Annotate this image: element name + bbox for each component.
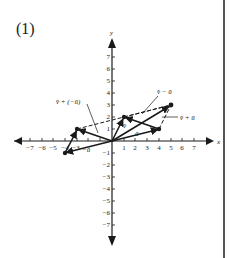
svg-text:7: 7: [192, 144, 196, 152]
svg-text:5: 5: [169, 144, 173, 152]
x-axis-label: x: [216, 138, 221, 146]
svg-text:−3: −3: [103, 173, 111, 181]
svg-text:6: 6: [107, 65, 111, 73]
x-axis-arrow-left-icon: [14, 137, 22, 145]
label-v-plus-neg-u: v̄ + (−ū): [56, 98, 81, 106]
y-axis-arrow-down-icon: [108, 236, 116, 246]
svg-text:−7: −7: [26, 144, 34, 152]
label-v-plus-u: v̄ + ū: [180, 114, 195, 122]
y-axis-label: y: [109, 29, 114, 37]
svg-text:−6: −6: [38, 144, 46, 152]
svg-text:−6: −6: [103, 209, 111, 217]
label-neg-u: −ū: [82, 146, 91, 154]
svg-text:1: 1: [122, 144, 126, 152]
svg-text:3: 3: [107, 101, 111, 109]
vector-v-minus-u: [126, 118, 160, 130]
label-v-minus-u: v̄ − ū: [157, 88, 172, 96]
svg-text:3: 3: [145, 144, 149, 152]
x-tick-labels: −7 −6 −5 −4 −3 1 2 3 4 5 6 7: [26, 144, 196, 152]
svg-text:−5: −5: [49, 144, 57, 152]
svg-text:−7: −7: [103, 221, 111, 229]
svg-text:4: 4: [157, 144, 161, 152]
svg-text:4: 4: [107, 89, 111, 97]
svg-text:2: 2: [107, 113, 111, 121]
y-axis-arrow-up-icon: [108, 38, 116, 48]
label-v: v̄: [123, 122, 127, 130]
svg-text:1: 1: [107, 125, 111, 133]
svg-text:6: 6: [180, 144, 184, 152]
svg-text:−1: −1: [103, 149, 111, 157]
svg-text:−5: −5: [103, 197, 111, 205]
svg-text:2: 2: [133, 144, 137, 152]
svg-text:7: 7: [107, 53, 111, 61]
svg-text:5: 5: [107, 77, 111, 85]
label-u: ū: [135, 130, 139, 138]
x-axis-arrow-right-icon: [206, 137, 214, 145]
svg-text:−4: −4: [103, 185, 111, 193]
svg-text:−2: −2: [103, 161, 111, 169]
vector-diagram: −7 −6 −5 −4 −3 1 2 3 4 5 6 7 x 7 6 5 4 3…: [0, 0, 230, 258]
